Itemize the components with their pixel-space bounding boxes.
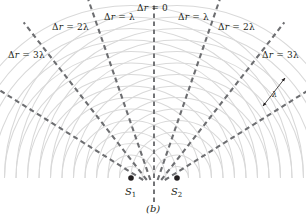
- antinode-label-right-lambda: Δr = λ: [178, 12, 209, 22]
- interference-figure: Δr = 3λ Δr = 2λ Δr = λ Δr = 0 Δr = λ Δr …: [0, 0, 306, 223]
- antinode-label-left-3lambda: Δr = 3λ: [8, 50, 45, 60]
- wavefront-group: [0, 6, 306, 224]
- wavefront-circle: [28, 75, 235, 224]
- antinodal-line: [158, 0, 223, 180]
- antinode-label-right-2lambda: Δr = 2λ: [218, 22, 255, 32]
- source-label-s2: S2: [171, 186, 182, 199]
- source-dot: [174, 175, 180, 181]
- antinodal-line: [85, 0, 150, 180]
- wavelength-label: λ: [272, 90, 277, 99]
- antinode-label-center-zero: Δr = 0: [137, 3, 168, 13]
- figure-canvas: [0, 0, 306, 223]
- antinode-label-right-3lambda: Δr = 3λ: [262, 50, 299, 60]
- antinode-label-left-lambda: Δr = λ: [104, 12, 135, 22]
- figure-caption: (b): [146, 203, 160, 214]
- source-label-s1: S1: [125, 186, 136, 199]
- antinode-label-left-2lambda: Δr = 2λ: [52, 22, 89, 32]
- source-dot: [128, 175, 134, 181]
- wavefront-circle: [74, 75, 281, 224]
